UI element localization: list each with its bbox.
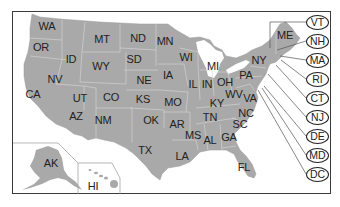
state-label-tn[interactable]: TN [203,112,217,123]
state-label-mi[interactable]: MI [207,61,219,72]
state-label-ca[interactable]: CA [26,89,41,100]
state-label-sc[interactable]: SC [233,119,248,130]
state-label-co[interactable]: CO [103,92,119,103]
state-label-va[interactable]: VA [243,93,256,104]
state-label-fl[interactable]: FL [238,162,250,173]
callout-ri[interactable]: RI [306,72,329,87]
state-label-ar[interactable]: AR [170,119,185,130]
state-label-mt[interactable]: MT [94,34,109,45]
state-label-ne[interactable]: NE [137,75,152,86]
callout-md[interactable]: MD [306,148,329,163]
state-label-tx[interactable]: TX [138,145,152,156]
state-label-oh[interactable]: OH [217,77,233,88]
state-label-wa[interactable]: WA [39,21,56,32]
state-label-nm[interactable]: NM [95,115,112,126]
state-label-ks[interactable]: KS [136,94,150,105]
callout-ma[interactable]: MA [306,53,329,68]
state-label-az[interactable]: AZ [69,111,83,122]
state-label-wi[interactable]: WI [179,52,192,63]
state-label-wv[interactable]: WV [225,89,242,100]
state-label-ky[interactable]: KY [210,98,224,109]
state-label-hi[interactable]: HI [88,181,99,192]
state-label-sd[interactable]: SD [127,54,142,65]
state-label-mn[interactable]: MN [157,36,174,47]
state-label-ms[interactable]: MS [185,130,201,141]
state-label-nc[interactable]: NC [238,108,254,119]
state-label-ga[interactable]: GA [221,132,237,143]
state-label-il[interactable]: IL [189,79,198,90]
state-label-pa[interactable]: PA [239,70,252,81]
state-label-me[interactable]: ME [277,30,293,41]
state-label-nd[interactable]: ND [130,33,146,44]
state-label-nv[interactable]: NV [48,74,63,85]
callout-nj[interactable]: NJ [306,110,329,125]
state-label-ut[interactable]: UT [73,93,87,104]
state-label-wy[interactable]: WY [92,61,109,72]
state-label-la[interactable]: LA [175,151,188,162]
state-label-or[interactable]: OR [33,42,49,53]
hawaii-inset-border [78,163,120,194]
state-label-id[interactable]: ID [66,54,77,65]
state-label-ak[interactable]: AK [44,158,58,169]
callout-de[interactable]: DE [306,129,329,144]
state-label-ny[interactable]: NY [252,55,267,66]
callout-ct[interactable]: CT [306,91,329,106]
state-label-ia[interactable]: IA [163,70,173,81]
callout-vt[interactable]: VT [306,15,329,30]
state-label-al[interactable]: AL [203,135,216,146]
callout-nh[interactable]: NH [306,34,329,49]
state-label-ok[interactable]: OK [143,115,159,126]
state-label-in[interactable]: IN [202,79,213,90]
state-label-mo[interactable]: MO [164,97,181,108]
callout-dc[interactable]: DC [306,167,329,182]
